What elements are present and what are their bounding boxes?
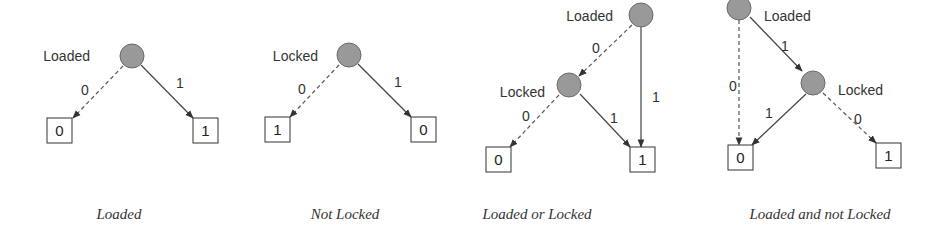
bdd-panel-2: 01Locked10Not Locked xyxy=(265,43,436,222)
terminal-value: 0 xyxy=(736,149,744,166)
decision-node-circle xyxy=(120,44,144,68)
edge-label: 1 xyxy=(394,74,402,90)
node-variable-label: Locked xyxy=(500,84,545,100)
terminal-value: 1 xyxy=(884,147,892,164)
terminal-value: 1 xyxy=(638,151,646,168)
decision-node-circle xyxy=(801,71,825,95)
edge-label: 0 xyxy=(854,111,862,127)
node-variable-label: Locked xyxy=(838,82,883,98)
terminal-value: 1 xyxy=(273,121,281,138)
bdd-diagrams: 01Loaded01Loaded01Locked10Not Locked0101… xyxy=(0,0,947,237)
decision-node-circle xyxy=(557,73,581,97)
edge-label: 0 xyxy=(298,81,306,97)
edge-label: 0 xyxy=(81,82,89,98)
edge-label: 1 xyxy=(652,89,660,105)
node-variable-label: Locked xyxy=(273,48,318,64)
low-edge-arrow xyxy=(823,93,876,143)
low-edge-arrow xyxy=(579,25,632,76)
edge-label: 0 xyxy=(729,78,737,94)
node-variable-label: Loaded xyxy=(43,48,90,64)
high-edge-arrow xyxy=(358,64,411,117)
node-variable-label: Loaded xyxy=(764,8,811,24)
edge-label: 0 xyxy=(592,40,600,56)
panel-caption: Loaded or Locked xyxy=(481,206,592,222)
decision-node-circle xyxy=(337,43,361,67)
edge-label: 0 xyxy=(522,108,530,124)
edge-label: 1 xyxy=(781,38,789,54)
node-variable-label: Loaded xyxy=(566,8,613,24)
panel-caption: Loaded and not Locked xyxy=(748,206,891,222)
terminal-value: 1 xyxy=(201,122,209,139)
low-edge-arrow xyxy=(510,95,559,147)
terminal-value: 0 xyxy=(494,151,502,168)
edge-label: 1 xyxy=(176,75,184,91)
high-edge-arrow xyxy=(141,65,193,118)
bdd-panel-4: 0110LoadedLocked01Loaded and not Locked xyxy=(727,0,901,222)
bdd-panel-1: 01Loaded01Loaded xyxy=(43,44,218,222)
edge-label: 1 xyxy=(765,105,773,121)
bdd-panel-3: 0101LoadedLocked01Loaded or Locked xyxy=(481,3,660,222)
terminal-value: 0 xyxy=(55,122,63,139)
panel-caption: Not Locked xyxy=(310,206,380,222)
high-edge-arrow xyxy=(752,94,806,145)
decision-node-circle xyxy=(629,3,653,27)
edge-label: 1 xyxy=(610,110,618,126)
high-edge-arrow xyxy=(580,94,630,147)
terminal-value: 0 xyxy=(419,121,427,138)
high-edge-arrow xyxy=(750,17,802,71)
decision-node-circle xyxy=(727,0,751,20)
panel-caption: Loaded xyxy=(96,206,143,222)
